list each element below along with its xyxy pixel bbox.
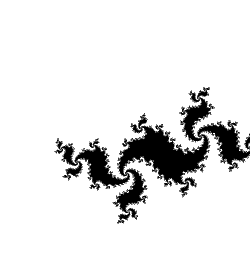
julia-set-canvas [40,16,250,280]
fractal-figure: Julia set dendrite [40,16,250,280]
